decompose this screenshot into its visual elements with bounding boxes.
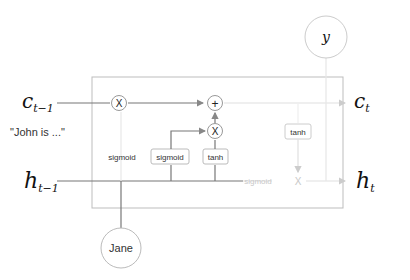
candidate-label: tanh (208, 153, 224, 162)
y-label: y (321, 29, 331, 45)
output-tanh-label: tanh (290, 128, 306, 137)
context-note: "John is ..." (10, 126, 65, 138)
h-out-label: ht (356, 168, 375, 195)
input-gate-label: sigmoid (156, 153, 184, 162)
output-gate-label: sigmoid (244, 177, 272, 186)
plus-icon: + (211, 97, 218, 111)
jane-label: Jane (109, 242, 133, 254)
c-prev-label: ct−1 (22, 89, 54, 115)
lstm-diagram: Jane sigmoid X sigmoid tanh X + tanh sig… (0, 0, 410, 280)
c-out-label: ct (354, 89, 370, 115)
h-prev-label: ht−1 (24, 168, 59, 195)
forget-gate-label: sigmoid (108, 153, 136, 162)
output-multiply-icon: X (295, 176, 302, 187)
multiply-icon: X (116, 98, 123, 109)
multiply-icon: X (212, 126, 219, 137)
